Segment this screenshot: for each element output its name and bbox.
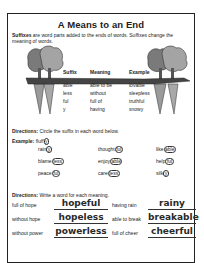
answer-field[interactable]: hopeful [54, 199, 108, 210]
cell-suffix: less [63, 90, 72, 96]
answer-field[interactable]: hopeless [54, 213, 108, 224]
worksheet: A Means to an End Suffixes are word part… [7, 13, 195, 263]
circle-word: rainy [38, 146, 52, 153]
circle-word: helpful [156, 158, 174, 165]
word-suffix-circled[interactable]: less [52, 158, 64, 165]
cell-meaning: without [90, 90, 106, 96]
circle-word: silky [156, 170, 169, 177]
write-row: full of hope hopeful having rain rainy [12, 199, 192, 213]
word-suffix-circled[interactable]: able [110, 158, 122, 165]
cell-suffix: y [63, 106, 66, 112]
cell-example: lovable [129, 82, 145, 88]
header-example: Example [129, 69, 150, 75]
word-stem: rain [38, 146, 46, 152]
meaning-label: having rain [112, 202, 136, 208]
word-stem: thought [98, 146, 115, 152]
meaning-label: without power [12, 230, 43, 236]
circle-word: peaceful [38, 170, 60, 177]
cell-example: truthful [129, 98, 144, 104]
circle-word: thoughtful [98, 146, 123, 153]
example-label: Example: [12, 138, 34, 144]
cell-meaning: having [90, 106, 105, 112]
circle-word: blameless [38, 158, 64, 165]
intro-body: are word parts added to the ends of word… [12, 32, 173, 44]
word-stem: care [98, 170, 108, 176]
cell-suffix: able [63, 82, 72, 88]
answer-field[interactable]: cheerful [148, 227, 196, 238]
word-stem: enjoy [98, 158, 110, 164]
circle-word: careless [98, 170, 120, 177]
intro-text: Suffixes are word parts added to the end… [12, 32, 192, 44]
word-suffix-circled[interactable]: ful [165, 158, 173, 165]
word-stem: like [156, 146, 164, 152]
word-suffix-circled[interactable]: y [46, 146, 52, 153]
meaning-label: full of hope [12, 202, 36, 208]
cell-meaning: able to be [90, 82, 112, 88]
cell-meaning: full of [90, 98, 102, 104]
example-stem: fluff [36, 138, 44, 144]
word-stem: peace [38, 170, 52, 176]
word-stem: blame [38, 158, 52, 164]
cell-example: sleepless [129, 90, 150, 96]
word-suffix-circled[interactable]: able [164, 146, 176, 153]
example-line: Example: fluffy [12, 138, 49, 145]
cell-example: snowy [129, 106, 143, 112]
word-suffix-circled[interactable]: ful [52, 170, 60, 177]
word-suffix-circled[interactable]: less [108, 170, 120, 177]
word-suffix-circled[interactable]: y [163, 170, 169, 177]
answer-field[interactable]: breakable [148, 213, 196, 224]
answer-field[interactable]: rainy [148, 199, 196, 210]
circle-word: enjoyable [98, 158, 122, 165]
cell-suffix: ful [63, 98, 68, 104]
write-row: without power powerless full of cheer ch… [12, 227, 192, 241]
worksheet-title: A Means to an End [8, 19, 194, 30]
directions-circle: Directions: Circle the suffix in each wo… [12, 128, 119, 134]
word-stem: help [156, 158, 165, 164]
meaning-label: full of cheer [112, 230, 138, 236]
example-suffix-circled: y [44, 138, 50, 145]
header-suffix: Suffix [63, 69, 77, 75]
directions-label: Directions: [12, 192, 38, 198]
word-suffix-circled[interactable]: ful [115, 146, 123, 153]
directions-label: Directions: [12, 128, 38, 134]
directions-text: Circle the suffix in each word below. [38, 128, 119, 134]
circle-word: likeable [156, 146, 176, 153]
word-stem: silk [156, 170, 163, 176]
meaning-label: able to break [112, 216, 141, 222]
header-meaning: Meaning [90, 69, 110, 75]
write-row: without hope hopeless able to break brea… [12, 213, 192, 227]
meaning-label: without hope [12, 216, 40, 222]
answer-field[interactable]: powerless [54, 227, 108, 238]
